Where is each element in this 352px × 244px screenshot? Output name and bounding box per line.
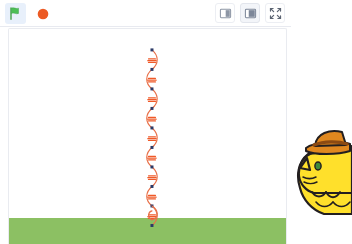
pen-curve-segment [152,89,157,109]
small-stage-icon [219,7,232,20]
pen-node-dot [150,165,153,168]
stage-toolbar [0,0,291,27]
green-flag-icon [8,6,23,21]
stop-button[interactable] [32,3,53,24]
fullscreen-button[interactable] [265,3,285,23]
pen-drawing-layer [9,29,286,244]
pen-curve-segment [147,147,152,167]
pen-terminal-loop [149,206,158,220]
pen-node-dot [150,146,153,149]
pen-curve-segment [152,167,157,187]
large-stage-button[interactable] [240,3,260,23]
stage-size-controls [215,3,285,23]
small-stage-button[interactable] [215,3,235,23]
stop-sign-icon [36,7,50,21]
pen-curve-segment [152,50,157,70]
pen-node-dot [150,224,153,227]
pen-node-dot [150,107,153,110]
toolbar-left-group [5,3,53,24]
stage-canvas[interactable] [8,28,287,244]
green-flag-button[interactable] [5,3,26,24]
pen-curve-segment [152,128,157,148]
pen-curve-segment [147,186,152,206]
large-stage-icon [244,7,257,20]
pen-curve-segment [147,69,152,89]
pen-path-group [147,48,157,227]
pen-node-dot [150,87,153,90]
pen-node-dot [150,126,153,129]
pen-curve-segment [147,108,152,128]
pen-node-dot [150,185,153,188]
cat-sprite[interactable] [294,124,352,216]
fullscreen-icon [269,7,282,20]
stage-player [0,0,352,244]
pen-node-dot [150,68,153,71]
pen-node-dot [150,48,153,51]
